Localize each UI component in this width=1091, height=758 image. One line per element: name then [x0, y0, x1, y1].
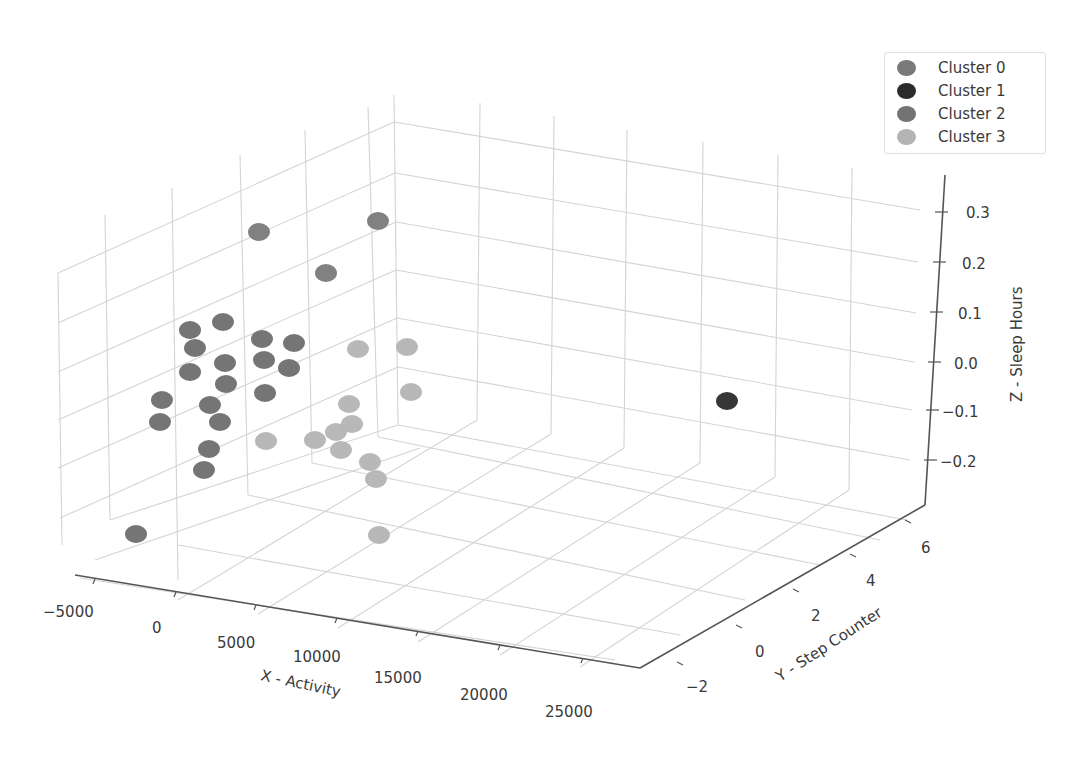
y-tick-label: 6: [921, 539, 931, 557]
z-tick-label: 0.0: [954, 355, 978, 373]
data-point-cluster-2: [199, 396, 221, 414]
data-point-cluster-3: [330, 441, 352, 459]
y-tick-label: 4: [866, 572, 876, 590]
data-point-cluster-3: [347, 340, 369, 358]
data-point-cluster-0: [367, 212, 389, 230]
legend-item-cluster-0: Cluster 0: [897, 57, 1006, 79]
z-tick-label: 0.1: [958, 305, 982, 323]
legend-marker-icon: [897, 129, 916, 145]
data-point-cluster-3: [365, 470, 387, 488]
z-tick-label: 0.2: [962, 255, 986, 273]
legend-item-cluster-1: Cluster 1: [897, 80, 1006, 102]
data-point-cluster-3: [304, 431, 326, 449]
y-tick-label: 2: [811, 607, 821, 625]
z-tick-label: −0.2: [940, 453, 976, 471]
legend-marker-icon: [897, 60, 916, 76]
data-point-cluster-2: [215, 375, 237, 393]
scatter-3d-chart: −5000 0 5000 10000 15000 20000 25000 X -…: [0, 0, 1091, 758]
legend-item-cluster-2: Cluster 2: [897, 103, 1006, 125]
data-point-cluster-2: [254, 384, 276, 402]
z-tick-label: 0.3: [966, 204, 990, 222]
legend-marker-icon: [897, 106, 916, 122]
data-point-cluster-2: [251, 330, 273, 348]
data-point-cluster-2: [212, 313, 234, 331]
y-tick-label: 0: [755, 643, 765, 661]
data-point-cluster-2: [179, 363, 201, 381]
data-point-cluster-2: [149, 413, 171, 431]
legend-label: Cluster 3: [938, 128, 1006, 146]
legend: Cluster 0 Cluster 1 Cluster 2 Cluster 3: [884, 52, 1046, 154]
data-point-cluster-3: [338, 395, 360, 413]
x-axis-label: X - Activity: [259, 666, 342, 701]
data-point-cluster-2: [253, 351, 275, 369]
z-axis-ticks: 0.3 0.2 0.1 0.0 −0.1 −0.2: [924, 204, 990, 471]
y-tick-label: −2: [686, 678, 708, 696]
data-point-cluster-1: [716, 392, 738, 410]
x-tick-label: 0: [152, 619, 162, 637]
legend-label: Cluster 0: [938, 59, 1006, 77]
data-point-cluster-0: [315, 264, 337, 282]
legend-marker-icon: [897, 83, 916, 99]
data-points: [125, 212, 738, 544]
data-point-cluster-2: [193, 461, 215, 479]
data-point-cluster-2: [198, 440, 220, 458]
data-point-cluster-3: [368, 526, 390, 544]
x-tick-label: 5000: [217, 634, 255, 652]
data-point-cluster-2: [209, 413, 231, 431]
z-axis-label: Z - Sleep Hours: [1008, 286, 1026, 402]
data-point-cluster-2: [151, 391, 173, 409]
data-point-cluster-3: [359, 453, 381, 471]
data-point-cluster-3: [255, 432, 277, 450]
data-point-cluster-3: [341, 415, 363, 433]
data-point-cluster-2: [179, 321, 201, 339]
x-tick-label: 15000: [374, 669, 422, 687]
legend-label: Cluster 1: [938, 82, 1006, 100]
legend-label: Cluster 2: [938, 105, 1006, 123]
data-point-cluster-2: [125, 525, 147, 543]
x-axis-ticks: −5000 0 5000 10000 15000 20000 25000: [43, 579, 593, 721]
data-point-cluster-3: [400, 383, 422, 401]
z-tick-label: −0.1: [942, 403, 978, 421]
x-tick-label: 25000: [545, 703, 593, 721]
data-point-cluster-0: [248, 223, 270, 241]
data-point-cluster-2: [283, 334, 305, 352]
legend-item-cluster-3: Cluster 3: [897, 126, 1006, 148]
data-point-cluster-2: [184, 339, 206, 357]
data-point-cluster-2: [278, 359, 300, 377]
x-tick-label: −5000: [43, 603, 94, 621]
data-point-cluster-2: [214, 354, 236, 372]
x-tick-label: 10000: [293, 648, 341, 666]
x-tick-label: 20000: [460, 686, 508, 704]
data-point-cluster-3: [396, 338, 418, 356]
y-axis-label: Y - Step Counter: [772, 603, 886, 686]
